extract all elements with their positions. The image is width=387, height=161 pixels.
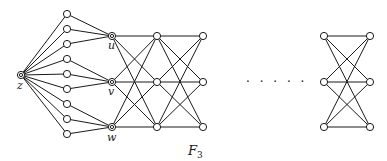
edge	[67, 127, 112, 134]
edge	[67, 36, 112, 44]
col3-node-1	[199, 32, 206, 39]
ellipsis: · · · · ·	[246, 75, 307, 89]
edge	[67, 82, 112, 89]
right-left-node-2	[320, 78, 327, 85]
caption-f3: F3	[187, 143, 203, 160]
graph-diagram: z u v w F3 · · · · ·	[0, 0, 387, 161]
label-v: v	[108, 85, 115, 98]
label-u: u	[108, 39, 115, 52]
fan-node-9	[63, 130, 70, 137]
right-right-node-2	[366, 78, 373, 85]
edge	[21, 44, 67, 75]
right-left-node-3	[320, 123, 327, 130]
edge	[21, 74, 67, 75]
edge	[21, 75, 67, 104]
edge	[67, 104, 112, 127]
col2-node-3	[153, 123, 160, 130]
node-w	[108, 123, 115, 130]
edge	[21, 75, 67, 134]
edge	[21, 59, 67, 75]
fan-node-5	[63, 70, 70, 77]
col2-node-2	[153, 78, 160, 85]
edges	[21, 14, 370, 134]
label-w: w	[107, 131, 117, 144]
label-z: z	[16, 79, 23, 92]
caption-subscript: 3	[197, 150, 203, 160]
fan-node-4	[63, 55, 70, 62]
fan-node-7	[63, 100, 70, 107]
col3-node-2	[199, 78, 206, 85]
fan-node-3	[63, 40, 70, 47]
node-z	[17, 71, 24, 78]
col3-node-3	[199, 123, 206, 130]
col2-node-1	[153, 32, 160, 39]
fan-node-8	[63, 115, 70, 122]
fan-node-2	[63, 25, 70, 32]
edge	[21, 29, 67, 75]
right-right-node-3	[366, 123, 373, 130]
right-left-node-1	[320, 32, 327, 39]
fan-node-6	[63, 85, 70, 92]
edge	[67, 59, 112, 82]
right-right-node-1	[366, 32, 373, 39]
edge	[21, 14, 67, 75]
fan-node-1	[63, 10, 70, 17]
